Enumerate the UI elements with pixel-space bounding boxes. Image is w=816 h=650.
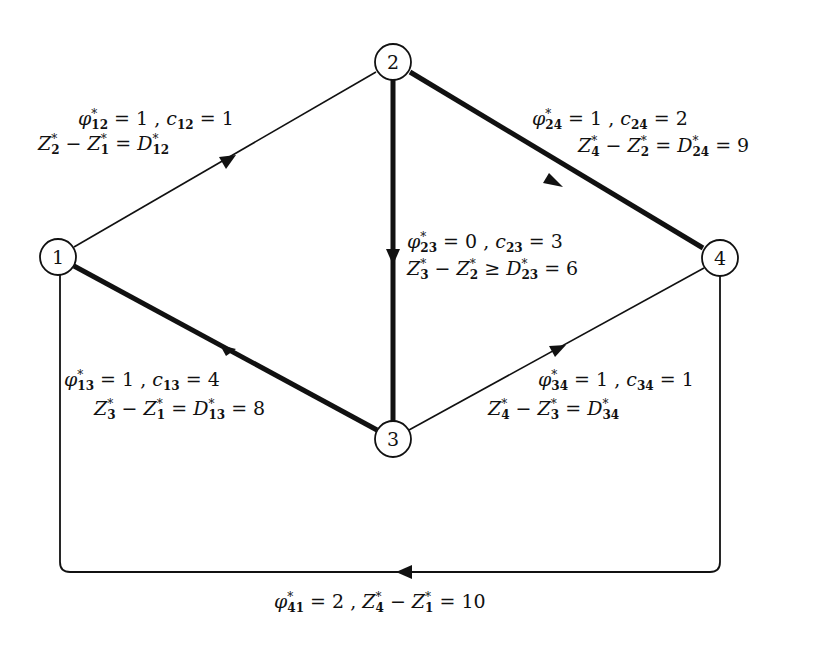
node-4: 4 — [702, 240, 738, 276]
node-2: 2 — [375, 44, 411, 80]
label-edge-2-4-line2: Z*4 − Z*2 = D*24 = 9 — [578, 133, 749, 157]
svg-text:3: 3 — [387, 428, 399, 450]
svg-text:2: 2 — [387, 51, 399, 73]
network-graph: 1 2 3 4 — [0, 0, 816, 650]
label-edge-3-4-line1: φ*34 = 1 , c34 = 1 — [538, 367, 694, 391]
node-1: 1 — [40, 239, 76, 275]
arrow-icon-2-3 — [386, 249, 400, 265]
label-edge-1-2-line2: Z*2 − Z*1 = D*12 — [38, 131, 169, 155]
arrow-icon-4-1 — [396, 565, 412, 579]
svg-text:1: 1 — [52, 246, 64, 268]
label-edge-1-3-line1: φ*13 = 1 , c13 = 4 — [64, 367, 220, 391]
label-edge-2-3-line1: φ*23 = 0 , c23 = 3 — [407, 229, 563, 253]
label-edge-3-4-line2: Z*4 − Z*3 = D*34 — [488, 396, 619, 420]
label-edge-4-1: φ*41 = 2 , Z*4 − Z*1 = 10 — [274, 589, 486, 613]
node-3: 3 — [375, 421, 411, 457]
svg-text:4: 4 — [714, 247, 726, 269]
label-edge-1-2-line1: φ*12 = 1 , c12 = 1 — [78, 106, 234, 130]
label-edge-2-3-line2: Z*3 − Z*2 ≥ D*23 = 6 — [407, 256, 578, 280]
arrow-icon-2-4 — [543, 173, 563, 187]
label-edge-1-3-line2: Z*3 − Z*1 = D*13 = 8 — [94, 396, 265, 420]
label-edge-2-4-line1: φ*24 = 1 , c24 = 2 — [532, 106, 688, 130]
edge-2-4 — [410, 72, 703, 248]
